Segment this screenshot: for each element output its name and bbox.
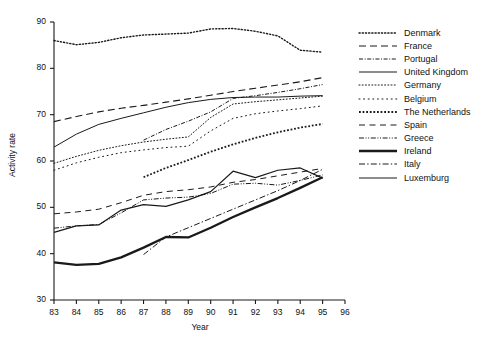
legend-item-france[interactable]: France [358,39,482,52]
y-tick-70: 70 [20,109,46,119]
series-line-the-netherlands [144,124,323,177]
legend-line-swatch-icon [358,93,398,105]
legend-item-label: Italy [404,158,421,170]
series-line-germany [54,96,323,163]
y-tick-90: 90 [20,16,46,26]
legend-item-luxemburg[interactable]: Luxemburg [358,171,482,184]
chart-legend: DenmarkFrancePortugalUnited KingdomGerma… [358,26,482,184]
legend-item-label: Denmark [404,27,441,39]
x-tick-86: 86 [111,307,131,317]
legend-item-label: Greece [404,132,434,144]
legend-item-label: Spain [404,119,427,131]
legend-item-label: Portugal [404,53,438,65]
y-tick-50: 50 [20,201,46,211]
legend-item-label: Luxemburg [404,172,449,184]
legend-item-denmark[interactable]: Denmark [358,26,482,39]
legend-line-swatch-icon [358,119,398,131]
x-tick-95: 95 [313,307,333,317]
x-tick-90: 90 [201,307,221,317]
y-tick-30: 30 [20,294,46,304]
legend-item-the-netherlands[interactable]: The Netherlands [358,105,482,118]
series-line-spain [54,168,323,213]
legend-item-label: The Netherlands [404,106,471,118]
series-line-portugal [144,85,323,141]
legend-item-label: Belgium [404,93,437,105]
x-axis-title: Year [54,322,346,332]
legend-line-swatch-icon [358,53,398,65]
legend-line-swatch-icon [358,27,398,39]
series-line-france [54,78,323,122]
series-line-denmark [54,28,323,52]
legend-item-label: United Kingdom [404,66,468,78]
legend-item-ireland[interactable]: Ireland [358,145,482,158]
x-tick-87: 87 [134,307,154,317]
y-tick-40: 40 [20,248,46,258]
legend-item-united-kingdom[interactable]: United Kingdom [358,66,482,79]
legend-item-germany[interactable]: Germany [358,79,482,92]
x-tick-93: 93 [268,307,288,317]
legend-line-swatch-icon [358,106,398,118]
series-line-greece [54,175,323,228]
y-axis-title: Activity rate [7,115,17,195]
legend-line-swatch-icon [358,172,398,184]
chart-root: Activity rate Year 30405060708090 838485… [0,0,483,343]
series-line-luxemburg [54,168,323,232]
y-tick-80: 80 [20,62,46,72]
legend-item-italy[interactable]: Italy [358,158,482,171]
legend-item-label: Ireland [404,145,432,157]
line-chart-figure: Activity rate Year 30405060708090 838485… [0,0,483,343]
legend-line-swatch-icon [358,158,398,170]
series-line-united-kingdom [54,96,323,147]
x-tick-84: 84 [66,307,86,317]
legend-line-swatch-icon [358,145,398,157]
x-tick-88: 88 [156,307,176,317]
legend-line-swatch-icon [358,79,398,91]
x-tick-92: 92 [245,307,265,317]
x-tick-91: 91 [223,307,243,317]
legend-line-swatch-icon [358,40,398,52]
legend-item-spain[interactable]: Spain [358,118,482,131]
legend-item-label: France [404,40,432,52]
legend-line-swatch-icon [358,66,398,78]
x-tick-85: 85 [89,307,109,317]
legend-item-portugal[interactable]: Portugal [358,52,482,65]
legend-item-label: Germany [404,79,441,91]
legend-line-swatch-icon [358,132,398,144]
legend-item-belgium[interactable]: Belgium [358,92,482,105]
legend-item-greece[interactable]: Greece [358,132,482,145]
y-tick-60: 60 [20,155,46,165]
x-tick-89: 89 [178,307,198,317]
x-tick-83: 83 [44,307,64,317]
x-tick-96: 96 [335,307,355,317]
series-line-ireland [54,177,323,265]
x-tick-94: 94 [290,307,310,317]
